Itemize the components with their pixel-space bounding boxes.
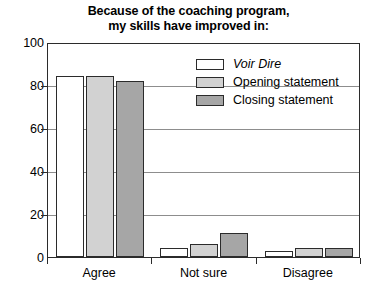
bar-disagree-series-2: [325, 248, 353, 257]
legend-label: Opening statement: [233, 76, 339, 89]
legend-swatch-icon: [196, 95, 224, 106]
y-tick-label: 60: [4, 123, 44, 135]
x-tick-mark: [47, 258, 48, 264]
y-tick-label: 80: [4, 80, 44, 92]
legend-label: Closing statement: [233, 94, 333, 107]
chart-title-line-2: my skills have improved in:: [0, 19, 377, 34]
x-axis-label-disagree: Disagree: [253, 266, 363, 280]
y-tick-label: 100: [4, 37, 44, 49]
legend-item: Opening statement: [196, 73, 339, 91]
bar-agree-series-1: [86, 76, 114, 257]
legend-item: Closing statement: [196, 91, 339, 109]
bar-group: [48, 44, 152, 257]
x-tick-mark: [151, 258, 152, 264]
y-tick-label: 0: [4, 252, 44, 264]
legend-swatch-icon: [196, 77, 224, 88]
x-tick-mark: [256, 258, 257, 264]
y-tick-label: 20: [4, 209, 44, 221]
bar-not-sure-series-1: [190, 244, 218, 257]
legend-label: Voir Dire: [233, 58, 281, 71]
chart-title: Because of the coaching program, my skil…: [0, 4, 377, 34]
y-tick-label: 40: [4, 166, 44, 178]
bar-disagree-series-0: [265, 251, 293, 257]
chart-title-line-1: Because of the coaching program,: [0, 4, 377, 19]
bar-not-sure-series-0: [160, 248, 188, 257]
x-axis-label-not-sure: Not sure: [149, 266, 259, 280]
legend-item: Voir Dire: [196, 55, 339, 73]
legend: Voir DireOpening statementClosing statem…: [196, 55, 339, 109]
bar-not-sure-series-2: [220, 233, 248, 257]
bar-agree-series-0: [56, 76, 84, 257]
bar-disagree-series-1: [295, 248, 323, 257]
bar-agree-series-2: [116, 81, 144, 257]
legend-swatch-icon: [196, 59, 224, 70]
bar-chart: Because of the coaching program, my skil…: [0, 0, 377, 291]
x-tick-mark: [360, 258, 361, 264]
x-axis-label-agree: Agree: [44, 266, 154, 280]
